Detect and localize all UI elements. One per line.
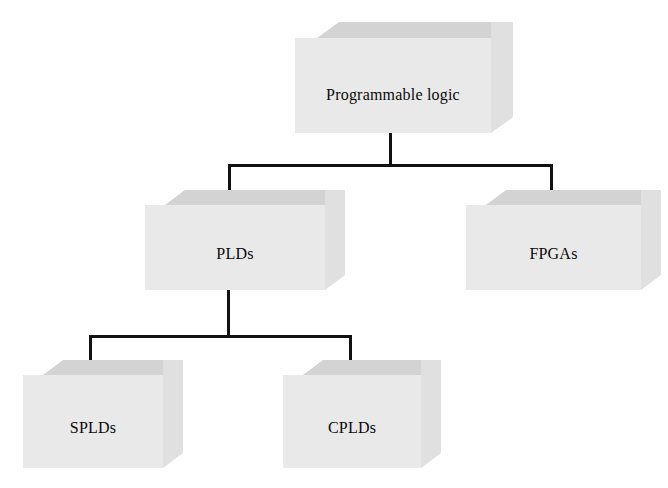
node-programmable-logic[interactable]: Programmable logic: [295, 22, 513, 133]
node-splds[interactable]: SPLDs: [23, 360, 183, 468]
node-plds[interactable]: PLDs: [145, 190, 345, 290]
edge-plds-stem: [227, 290, 230, 338]
edge-plds-bus: [89, 335, 352, 338]
node-cplds-label: CPLDs: [283, 419, 421, 437]
node-fpgas-label: FPGAs: [466, 245, 641, 263]
node-programmable-logic-label: Programmable logic: [295, 86, 491, 104]
node-splds-side-face: [163, 360, 183, 468]
edge-root-stem: [389, 133, 392, 167]
node-cplds-side-face: [421, 360, 441, 468]
node-plds-top-face: [165, 190, 345, 205]
node-cplds-top-face: [303, 360, 441, 375]
edge-root-bus: [228, 164, 553, 167]
node-programmable-logic-side-face: [491, 22, 513, 133]
node-plds-side-face: [325, 190, 345, 290]
node-fpgas[interactable]: FPGAs: [466, 190, 661, 290]
diagram-canvas: Programmable logic PLDs FPGAs SPLDs CPLD…: [0, 0, 668, 488]
node-cplds[interactable]: CPLDs: [283, 360, 441, 468]
node-splds-label: SPLDs: [23, 419, 163, 437]
node-programmable-logic-top-face: [317, 22, 513, 38]
node-splds-top-face: [43, 360, 183, 375]
node-plds-label: PLDs: [145, 245, 325, 263]
node-fpgas-side-face: [641, 190, 661, 290]
node-fpgas-top-face: [486, 190, 661, 205]
